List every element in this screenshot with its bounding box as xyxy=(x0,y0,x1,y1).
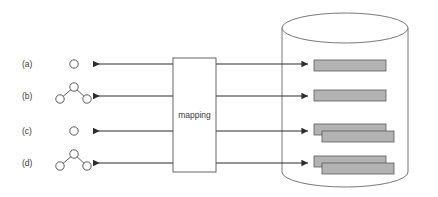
mapping-box-label: mapping xyxy=(178,110,211,120)
mapping-box[interactable]: mapping xyxy=(173,58,216,172)
record-a-single xyxy=(314,60,386,71)
record-bar-front xyxy=(322,163,394,174)
graph-node xyxy=(70,150,78,158)
row-label-a: (a) xyxy=(22,59,33,69)
graph-node xyxy=(56,95,64,103)
record-b-single xyxy=(314,90,386,101)
record-bar xyxy=(314,60,386,71)
graph-c-single-node xyxy=(70,127,78,135)
graph-d-tree xyxy=(56,150,91,170)
diagram-canvas: (a) (b) xyxy=(0,0,438,197)
row-label-c: (c) xyxy=(22,126,32,136)
record-bar xyxy=(314,90,386,101)
graph-b-tree xyxy=(56,83,91,103)
record-d-stacked-pair xyxy=(314,156,394,174)
graph-node xyxy=(70,83,78,91)
cylinder-top-ellipse xyxy=(282,13,408,43)
record-bar-front xyxy=(322,131,394,142)
graph-a-single-node xyxy=(70,60,78,68)
diagram-svg: (a) (b) xyxy=(0,0,438,197)
graph-node xyxy=(83,95,91,103)
record-c-stacked-pair xyxy=(314,124,394,142)
graph-node xyxy=(83,162,91,170)
graph-node xyxy=(70,127,78,135)
graph-node xyxy=(70,60,78,68)
row-label-d: (d) xyxy=(22,158,33,168)
graph-node xyxy=(56,162,64,170)
row-label-b: (b) xyxy=(22,91,33,101)
